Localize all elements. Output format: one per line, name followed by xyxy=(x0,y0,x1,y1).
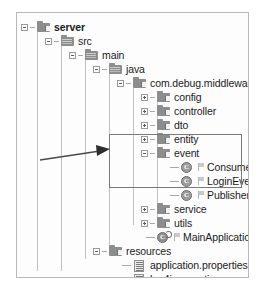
tree-node-label: controller xyxy=(174,104,216,118)
tree-connector-dash xyxy=(126,83,131,84)
tree-connector-dash xyxy=(150,139,155,140)
expand-toggle-icon[interactable] xyxy=(141,94,148,101)
collapse-toggle-icon[interactable] xyxy=(117,80,124,87)
tree-connector-dash xyxy=(150,153,155,154)
tree-connector-dash xyxy=(102,69,107,70)
tree-node-login-event[interactable]: CLoginEvent xyxy=(165,174,249,188)
tree-connector-dash xyxy=(150,111,155,112)
collapse-toggle-icon[interactable] xyxy=(21,24,28,31)
expand-toggle-icon[interactable] xyxy=(141,206,148,213)
tree-connector-dash xyxy=(102,251,107,252)
tree-node-publisher[interactable]: CPublisher xyxy=(165,188,249,202)
tree-node-label: entity xyxy=(174,132,199,146)
folder-source-icon xyxy=(157,218,170,229)
tree-connector-dash xyxy=(30,27,35,28)
tree-node-label: dto xyxy=(174,118,188,132)
java-class-icon: C xyxy=(181,162,194,173)
tree-connector-dash xyxy=(150,125,155,126)
tree-node-consumer[interactable]: CConsumer xyxy=(165,160,249,174)
tree-node-server[interactable]: server xyxy=(21,20,85,34)
folder-icon xyxy=(85,50,98,61)
tree-node-log4j-props[interactable]: log4j.properties xyxy=(117,272,220,278)
class-marker-icon xyxy=(198,163,204,171)
class-marker-icon xyxy=(174,233,180,241)
expand-toggle-icon[interactable] xyxy=(141,220,148,227)
tree-node-package-root[interactable]: com.debug.middleware.server xyxy=(117,76,249,90)
tree-connector-dash xyxy=(150,209,155,210)
tree-node-service[interactable]: service xyxy=(141,202,207,216)
folder-source-icon xyxy=(157,106,170,117)
tree-node-resources[interactable]: resources xyxy=(93,244,171,258)
tree-node-label: server xyxy=(54,20,85,34)
collapse-toggle-icon[interactable] xyxy=(93,66,100,73)
folder-source-icon xyxy=(109,246,122,257)
tree-node-label: config xyxy=(174,90,201,104)
tree-node-label: MainApplication xyxy=(183,230,249,244)
java-class-icon: C xyxy=(181,190,194,201)
expand-toggle-icon[interactable] xyxy=(141,136,148,143)
expand-toggle-icon[interactable] xyxy=(141,122,148,129)
folder-source-icon xyxy=(157,148,170,159)
tree-node-dto[interactable]: dto xyxy=(141,118,188,132)
tree-node-main-application[interactable]: CMainApplication xyxy=(141,230,249,244)
folder-source-icon xyxy=(157,120,170,131)
tree-connector-dash xyxy=(150,223,155,224)
folder-source-icon xyxy=(157,92,170,103)
tree-connector-dash xyxy=(54,41,59,42)
properties-file-icon xyxy=(133,260,146,271)
folder-source-icon xyxy=(157,204,170,215)
tree-node-controller[interactable]: controller xyxy=(141,104,216,118)
tree-node-label: event xyxy=(174,146,199,160)
tree-node-label: application.properties xyxy=(150,258,248,272)
collapse-toggle-icon[interactable] xyxy=(141,150,148,157)
java-main-class-icon: C xyxy=(157,232,170,243)
tree-node-src[interactable]: src xyxy=(45,34,92,48)
collapse-toggle-icon[interactable] xyxy=(69,52,76,59)
collapse-toggle-icon[interactable] xyxy=(45,38,52,45)
tree-node-label: log4j.properties xyxy=(150,272,220,278)
properties-file-icon xyxy=(133,274,146,279)
tree-node-label: utils xyxy=(174,216,192,230)
collapse-toggle-icon[interactable] xyxy=(93,248,100,255)
class-marker-icon xyxy=(198,177,204,185)
tree-node-application-props[interactable]: application.properties xyxy=(117,258,248,272)
tree-node-main[interactable]: main xyxy=(69,48,124,62)
folder-icon xyxy=(61,36,74,47)
annotation-arrow-icon xyxy=(38,140,114,166)
tree-node-label: Publisher xyxy=(207,188,249,202)
folder-icon xyxy=(109,64,122,75)
screenshot-stage: serversrcmainjavacom.debug.middleware.se… xyxy=(0,0,267,292)
tree-node-java[interactable]: java xyxy=(93,62,145,76)
tree-node-label: resources xyxy=(126,244,171,258)
tree-node-label: service xyxy=(174,202,207,216)
tree-connector-dash xyxy=(170,167,179,168)
folder-source-icon xyxy=(133,78,146,89)
tree-guide-line xyxy=(133,77,134,225)
java-class-icon: C xyxy=(181,176,194,187)
tree-node-label: main xyxy=(102,48,124,62)
tree-node-label: src xyxy=(78,34,92,48)
tree-connector-dash xyxy=(78,55,83,56)
tree-connector-dash xyxy=(146,237,155,238)
expand-toggle-icon[interactable] xyxy=(141,108,148,115)
tree-node-label: java xyxy=(126,62,145,76)
folder-source-icon xyxy=(157,134,170,145)
tree-node-label: LoginEvent xyxy=(207,174,249,188)
tree-node-config[interactable]: config xyxy=(141,90,201,104)
tree-connector-dash xyxy=(122,265,131,266)
tree-node-entity[interactable]: entity xyxy=(141,132,199,146)
tree-connector-dash xyxy=(150,97,155,98)
tree-node-label: Consumer xyxy=(207,160,249,174)
tree-node-utils[interactable]: utils xyxy=(141,216,192,230)
tree-connector-dash xyxy=(170,195,179,196)
tree-node-event[interactable]: event xyxy=(141,146,199,160)
folder-source-icon xyxy=(37,22,50,33)
tree-node-label: com.debug.middleware.server xyxy=(150,76,249,90)
class-marker-icon xyxy=(198,191,204,199)
tree-connector-dash xyxy=(170,181,179,182)
